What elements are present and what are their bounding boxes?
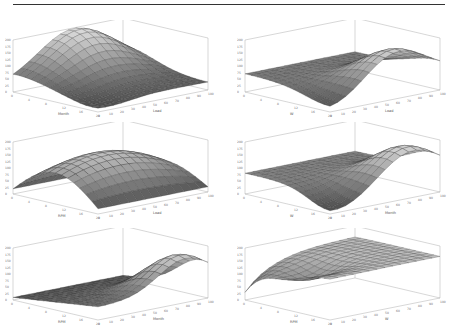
svg-text:175: 175 <box>237 147 243 151</box>
svg-text:100: 100 <box>208 194 214 198</box>
svg-text:0: 0 <box>98 114 100 118</box>
svg-text:25: 25 <box>237 186 241 190</box>
svg-text:75: 75 <box>237 173 241 177</box>
svg-text:100: 100 <box>208 300 214 304</box>
svg-text:20: 20 <box>352 212 356 216</box>
svg-text:90: 90 <box>429 302 433 306</box>
svg-text:30: 30 <box>363 315 367 319</box>
svg-text:W: W <box>290 112 294 116</box>
svg-text:150: 150 <box>5 51 11 55</box>
svg-text:RPM: RPM <box>58 320 66 324</box>
svg-text:30: 30 <box>363 107 367 111</box>
svg-text:16: 16 <box>79 318 83 322</box>
surface-plot-d: 0255075100125150175200048121620010203040… <box>237 122 452 222</box>
svg-text:0: 0 <box>237 192 239 196</box>
svg-text:60: 60 <box>164 309 168 313</box>
svg-text:80: 80 <box>418 304 422 308</box>
svg-text:90: 90 <box>429 94 433 98</box>
svg-text:W: W <box>385 317 389 321</box>
svg-text:200: 200 <box>237 38 243 42</box>
svg-text:0: 0 <box>243 94 245 98</box>
svg-text:125: 125 <box>5 160 11 164</box>
svg-text:90: 90 <box>197 302 201 306</box>
svg-text:75: 75 <box>237 279 241 283</box>
svg-text:70: 70 <box>175 307 179 311</box>
svg-text:8: 8 <box>45 310 47 314</box>
svg-text:40: 40 <box>374 313 378 317</box>
svg-text:50: 50 <box>237 77 241 81</box>
svg-text:50: 50 <box>153 103 157 107</box>
svg-text:200: 200 <box>5 140 11 144</box>
svg-text:50: 50 <box>237 285 241 289</box>
svg-text:10: 10 <box>109 214 113 218</box>
svg-text:Month: Month <box>153 317 164 321</box>
svg-text:12: 12 <box>62 106 66 110</box>
svg-text:75: 75 <box>237 71 241 75</box>
svg-text:90: 90 <box>429 196 433 200</box>
svg-text:4: 4 <box>260 200 262 204</box>
svg-text:125: 125 <box>5 266 11 270</box>
svg-text:50: 50 <box>153 311 157 315</box>
svg-text:10: 10 <box>109 112 113 116</box>
svg-text:50: 50 <box>385 103 389 107</box>
svg-text:125: 125 <box>237 160 243 164</box>
svg-text:12: 12 <box>294 208 298 212</box>
svg-text:16: 16 <box>79 212 83 216</box>
svg-text:Month: Month <box>385 211 396 215</box>
svg-text:4: 4 <box>260 306 262 310</box>
svg-text:175: 175 <box>5 147 11 151</box>
svg-text:60: 60 <box>396 309 400 313</box>
svg-text:50: 50 <box>237 179 241 183</box>
svg-text:8: 8 <box>45 102 47 106</box>
svg-text:25: 25 <box>237 84 241 88</box>
svg-text:50: 50 <box>385 311 389 315</box>
svg-text:RPM: RPM <box>58 214 66 218</box>
svg-text:Load: Load <box>385 109 393 113</box>
svg-text:50: 50 <box>5 179 9 183</box>
svg-text:200: 200 <box>5 38 11 42</box>
svg-text:20: 20 <box>120 318 124 322</box>
svg-text:0: 0 <box>237 90 239 94</box>
svg-text:100: 100 <box>440 300 446 304</box>
svg-text:16: 16 <box>311 318 315 322</box>
svg-text:200: 200 <box>237 246 243 250</box>
svg-text:100: 100 <box>237 64 243 68</box>
svg-text:12: 12 <box>62 208 66 212</box>
svg-text:RPM: RPM <box>290 320 298 324</box>
svg-text:0: 0 <box>5 298 7 302</box>
svg-text:Load: Load <box>153 211 161 215</box>
svg-text:150: 150 <box>237 153 243 157</box>
svg-text:4: 4 <box>28 98 30 102</box>
svg-text:70: 70 <box>407 201 411 205</box>
svg-text:0: 0 <box>243 196 245 200</box>
svg-text:40: 40 <box>374 207 378 211</box>
svg-text:20: 20 <box>120 212 124 216</box>
svg-text:100: 100 <box>208 92 214 96</box>
svg-text:100: 100 <box>5 64 11 68</box>
svg-text:175: 175 <box>5 253 11 257</box>
svg-text:0: 0 <box>330 216 332 220</box>
svg-text:30: 30 <box>131 315 135 319</box>
svg-text:Month: Month <box>58 112 69 116</box>
svg-text:0: 0 <box>98 216 100 220</box>
svg-text:8: 8 <box>277 310 279 314</box>
svg-text:80: 80 <box>186 304 190 308</box>
svg-text:80: 80 <box>418 198 422 202</box>
svg-text:0: 0 <box>5 192 7 196</box>
svg-text:70: 70 <box>175 201 179 205</box>
surface-plot-e: 0255075100125150175200048121620010203040… <box>5 228 220 328</box>
svg-text:150: 150 <box>237 259 243 263</box>
svg-text:150: 150 <box>237 51 243 55</box>
svg-text:100: 100 <box>440 194 446 198</box>
svg-text:10: 10 <box>341 320 345 324</box>
svg-text:70: 70 <box>407 307 411 311</box>
svg-text:10: 10 <box>341 112 345 116</box>
svg-text:125: 125 <box>5 58 11 62</box>
svg-text:100: 100 <box>5 166 11 170</box>
svg-text:50: 50 <box>5 285 9 289</box>
svg-text:70: 70 <box>407 99 411 103</box>
svg-text:25: 25 <box>5 292 9 296</box>
svg-text:8: 8 <box>277 102 279 106</box>
svg-text:8: 8 <box>45 204 47 208</box>
svg-text:100: 100 <box>440 92 446 96</box>
